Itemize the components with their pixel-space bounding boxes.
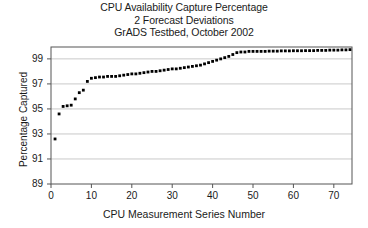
data-point [300,49,303,52]
data-point [143,71,146,74]
data-point [155,70,158,73]
y-tick-label: 95 [17,104,43,114]
data-point [74,98,77,101]
data-point [280,49,283,52]
data-point [288,49,291,52]
data-point [211,60,214,63]
data-point [252,50,255,53]
data-point [276,50,279,53]
data-point [90,77,93,80]
data-point [54,138,57,141]
data-point [320,49,323,52]
data-point [78,91,81,94]
data-point [98,76,101,79]
y-tick-label: 97 [17,79,43,89]
data-point [138,72,141,75]
data-point [292,49,295,52]
data-point [336,49,339,52]
data-point [268,50,271,53]
data-point [284,49,287,52]
data-point [70,104,73,107]
data-point [179,67,182,70]
data-point [264,50,267,53]
data-point [159,69,162,72]
x-tick-label: 10 [78,191,104,201]
x-tick-label: 70 [321,191,347,201]
data-point [349,48,352,51]
data-point [122,74,125,77]
y-tick-label: 89 [17,179,43,189]
data-point [260,50,263,53]
data-point [191,65,194,68]
data-point [106,75,109,78]
data-point [171,67,174,70]
data-point [126,73,129,76]
y-tick-label: 99 [17,54,43,64]
data-point [167,68,170,71]
data-point [304,49,307,52]
data-point [324,49,327,52]
data-point [316,49,319,52]
x-tick-label: 50 [240,191,266,201]
data-point [114,75,117,78]
data-point [244,51,247,54]
data-point [312,49,315,52]
data-point [345,48,348,51]
data-point [332,49,335,52]
data-point [147,71,150,74]
data-point [308,49,311,52]
data-point [203,62,206,65]
data-point [110,75,113,78]
data-point [183,66,186,69]
data-point [207,61,210,64]
data-point [223,56,226,59]
gridlines [51,59,352,159]
data-point [134,73,137,76]
data-point [94,76,97,79]
data-point [239,51,242,54]
data-point [256,50,259,53]
data-point [296,49,299,52]
data-point [102,76,105,79]
data-point [175,67,178,70]
x-tick-label: 40 [200,191,226,201]
data-point [199,64,202,67]
data-point [328,49,331,52]
x-tick-label: 30 [159,191,185,201]
chart-figure: CPU Availability Capture Percentage 2 Fo… [0,0,368,228]
data-point [151,70,154,73]
data-point [272,50,275,53]
data-point [86,80,89,83]
y-tick-label: 91 [17,154,43,164]
data-point [58,113,61,116]
x-tick-label: 60 [280,191,306,201]
data-point [163,69,166,72]
data-point [248,50,251,53]
data-point [82,89,85,92]
y-tick-label: 93 [17,129,43,139]
data-point [219,57,222,60]
x-tick-label: 0 [38,191,64,201]
data-point [235,51,238,54]
plot-frame [51,47,352,184]
data-point [62,105,65,108]
data-point [66,104,69,107]
data-points [54,48,352,140]
data-point [231,53,234,56]
data-point [130,73,133,76]
data-point [227,55,230,58]
data-point [187,66,190,69]
data-point [195,64,198,67]
x-tick-label: 20 [119,191,145,201]
data-point [118,74,121,77]
data-point [215,59,218,62]
data-point [341,48,344,51]
